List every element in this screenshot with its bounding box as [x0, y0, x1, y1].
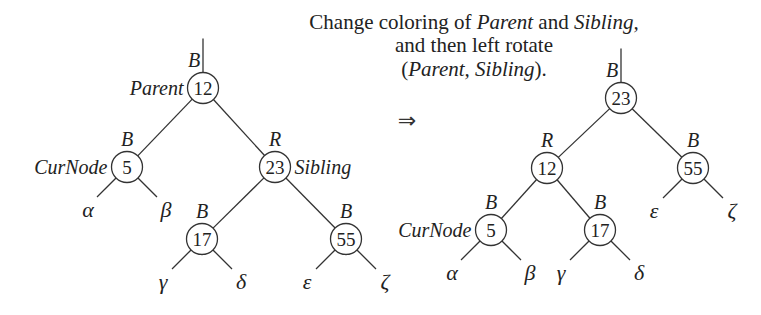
red-black-tree-diagram: Change coloring of Parent and Sibling, a…	[0, 0, 761, 315]
tree-edge	[213, 99, 264, 155]
subtree-label: α	[446, 260, 458, 285]
caption-text: ).	[535, 57, 547, 81]
node-color-label: B	[485, 191, 497, 213]
node-role-label: CurNode	[398, 219, 471, 241]
transform-arrow-icon: ⇒	[398, 108, 416, 133]
node-value: 5	[122, 157, 132, 178]
subtree-edge	[502, 241, 521, 260]
caption-italic-term: Parent, Sibling	[407, 57, 534, 81]
caption-line-2: and then left rotate	[395, 33, 553, 57]
node-color-label: B	[687, 129, 699, 151]
node-value: 55	[684, 158, 703, 179]
node-color-label: B	[594, 191, 606, 213]
node-color-label: B	[340, 200, 352, 222]
node-value: 23	[266, 157, 285, 178]
caption-line-3: (Parent, Sibling).	[401, 57, 547, 81]
subtree-label: ε	[650, 198, 659, 223]
subtree-edge	[704, 179, 723, 198]
node-value: 12	[194, 78, 213, 99]
tree-node: 17B	[187, 200, 218, 255]
subtree-label: δ	[236, 269, 247, 294]
subtree-edge	[461, 241, 480, 260]
subtree-edge	[172, 250, 191, 269]
node-color-label: B	[121, 128, 133, 150]
caption-italic-term: Parent	[476, 10, 535, 34]
tree-node: 12BParent	[129, 49, 219, 104]
subtree-label: α	[82, 197, 94, 222]
tree-node: 5BCurNode	[34, 128, 142, 183]
tree-node: 12R	[532, 129, 563, 184]
tree-edge	[213, 178, 264, 228]
node-value: 23	[612, 88, 631, 109]
subtree-label: γ	[557, 260, 567, 285]
tree-edge	[286, 178, 335, 228]
subtree-edge	[611, 241, 630, 260]
tree-node: 55B	[678, 129, 709, 184]
subtree-label: δ	[634, 260, 645, 285]
subtree-edge	[570, 241, 589, 260]
caption-italic-term: Sibling,	[574, 10, 639, 34]
tree-edge	[632, 109, 682, 157]
caption-text: and	[533, 10, 574, 34]
tree-node: 5BCurNode	[398, 191, 506, 246]
after-tree: αβγδεζ23B12R55B5BCurNode17B	[398, 49, 738, 286]
tree-node: 55B	[331, 200, 362, 255]
caption-text: Change coloring of	[309, 10, 476, 34]
node-value: 12	[538, 158, 557, 179]
node-value: 17	[193, 229, 212, 250]
node-role-label: Sibling	[295, 156, 352, 179]
subtree-edge	[663, 179, 682, 198]
caption-text: and then left rotate	[395, 33, 553, 57]
node-color-label: R	[268, 128, 281, 150]
subtree-label: γ	[159, 269, 169, 294]
subtree-label: β	[160, 197, 172, 222]
node-value: 5	[486, 220, 496, 241]
before-nodes: αβγδεζ12BParent5BCurNode23RSibling17B55B	[34, 49, 391, 295]
node-value: 55	[337, 229, 356, 250]
caption-line-1: Change coloring of Parent and Sibling,	[309, 10, 638, 34]
node-value: 17	[591, 220, 610, 241]
node-color-label: B	[188, 49, 200, 71]
tree-edge	[558, 109, 609, 158]
subtree-label: ζ	[728, 198, 739, 223]
node-color-label: B	[196, 200, 208, 222]
after-nodes: αβγδεζ23B12R55B5BCurNode17B	[398, 59, 738, 286]
tree-node: 23RSibling	[260, 128, 352, 183]
subtree-edge	[97, 178, 116, 197]
subtree-label: ε	[303, 269, 312, 294]
subtree-edge	[138, 178, 157, 197]
tree-edge	[557, 180, 590, 218]
before-tree: αβγδεζ12BParent5BCurNode23RSibling17B55B	[34, 39, 391, 295]
node-color-label: R	[540, 129, 553, 151]
node-role-label: CurNode	[34, 156, 107, 178]
node-role-label: Parent	[129, 77, 184, 99]
subtree-edge	[316, 250, 335, 269]
subtree-edge	[357, 250, 376, 269]
tree-edge	[501, 180, 536, 219]
tree-edge	[138, 99, 193, 156]
subtree-label: ζ	[381, 269, 392, 294]
caption-text: (	[401, 57, 408, 81]
subtree-label: β	[524, 260, 536, 285]
node-color-label: B	[606, 59, 618, 81]
subtree-edge	[213, 250, 232, 269]
